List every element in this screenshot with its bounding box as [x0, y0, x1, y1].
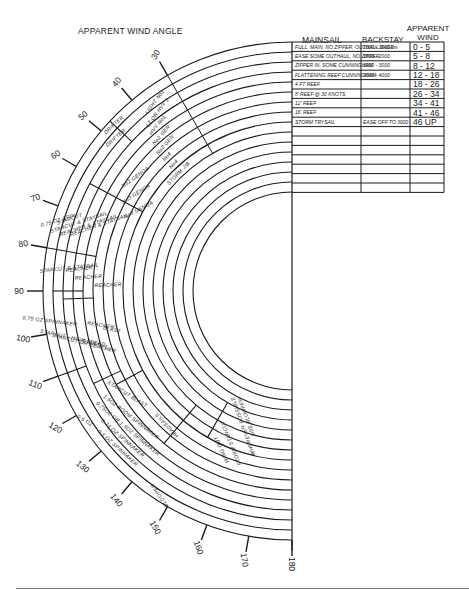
sail-label: BLOOPER	[149, 483, 169, 509]
backstay-header: BACKSTAY	[362, 36, 404, 44]
angle-tick-label: 100	[15, 332, 31, 344]
angle-tick	[122, 88, 132, 100]
bottom-divider	[16, 588, 469, 589]
backstay-cell: EASE OFF TO 3000	[363, 119, 409, 125]
wind-band-ring	[113, 112, 292, 470]
angle-tick-label: 150	[148, 519, 164, 537]
angle-tick-label: 140	[108, 491, 125, 509]
mainsail-cell: STORM TRYSAIL	[295, 119, 335, 125]
angle-tick-label: 180	[287, 557, 297, 571]
angle-tick	[63, 159, 77, 167]
angle-tick	[201, 525, 206, 540]
mainsail-header: MAINSAIL	[302, 36, 342, 44]
angle-tick-label: 160	[192, 539, 206, 556]
wind-band-ring	[63, 62, 292, 520]
backstay-cell: 1500 - 2000	[363, 53, 390, 59]
mainsail-cell: 16' REEF	[295, 109, 317, 115]
angle-tick-label: 40	[110, 75, 124, 89]
sail-label: No4	[161, 151, 172, 163]
sail-label: REACHER	[75, 273, 103, 281]
angle-tick	[63, 416, 77, 424]
angle-tick	[89, 451, 101, 461]
wind-band-ring	[103, 102, 292, 480]
angle-tick	[31, 334, 47, 337]
apparent-wind-header-line1: APPARENT	[406, 25, 450, 33]
angle-tick-label: 120	[47, 420, 65, 436]
mainsail-cell: ZIPPER IN, SOME CUNNINGHAM	[294, 62, 374, 68]
backstay-cell: 3000 - 4000	[363, 72, 390, 78]
backstay-cell: 2000 - 3000	[362, 62, 390, 68]
angle-tick-label: 50	[76, 108, 90, 122]
sail-label: No4	[168, 158, 179, 170]
angle-tick-label: 70	[29, 191, 42, 204]
sail-selection-polar-chart: FULL, MAIN, NO ZIPPER, OUTHAUL EASE1000 …	[0, 0, 469, 592]
wind-band-ring	[133, 132, 292, 450]
backstay-cell: 1000 - 1500 lbs	[363, 44, 398, 50]
mainsail-cell: 8' REEF @ 30 KNOTS	[295, 91, 346, 97]
mainsail-cell: 4 FT REEF	[295, 81, 321, 87]
sail-label: 0.75 OZ SPINNAKER	[22, 314, 78, 327]
chart-title: APPARENT WIND ANGLE	[78, 26, 183, 36]
sail-zone-separator	[116, 370, 142, 384]
angle-tick-label: 30	[149, 48, 163, 61]
wind-band-ring	[143, 142, 292, 440]
angle-tick	[43, 376, 58, 381]
sail-zone-separator	[47, 248, 96, 257]
angle-tick	[43, 200, 58, 205]
angle-tick-label: 110	[27, 377, 43, 391]
sail-zone-separator	[58, 366, 86, 376]
angle-tick	[31, 245, 47, 248]
wind-band-ring	[83, 82, 292, 500]
sail-label: BLAST	[103, 324, 122, 334]
angle-tick-label: 60	[49, 148, 62, 162]
wind-band-ring	[163, 162, 292, 420]
angle-tick-label: 90	[14, 286, 24, 296]
angle-tick	[246, 536, 249, 552]
apparent-wind-cell: 46 UP	[413, 117, 437, 127]
wind-band-ring	[123, 122, 292, 460]
angle-tick	[160, 62, 168, 76]
angle-tick	[122, 482, 132, 494]
angle-tick-label: 80	[18, 238, 29, 250]
mainsail-cell: 12' REEF	[295, 100, 317, 106]
angle-divider-30	[168, 75, 213, 153]
wind-band-ring	[173, 172, 292, 410]
sail-label: REACHER	[94, 281, 122, 288]
wind-band-ring	[183, 182, 292, 400]
angle-tick	[89, 121, 101, 131]
sail-zone-separator	[63, 298, 93, 299]
angle-tick-label: 170	[238, 552, 250, 568]
apparent-wind-header-line2: WIND	[406, 34, 450, 42]
